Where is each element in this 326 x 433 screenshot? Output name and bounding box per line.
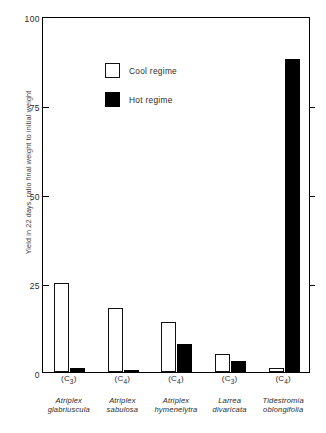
y-axis-tick-75: 75 <box>30 98 43 116</box>
bar-hot <box>70 368 85 372</box>
y-axis-tick-label: 0 <box>35 370 40 380</box>
species-name-label: Larreadivaricata <box>203 396 257 415</box>
species-name-label: Atriplexhymenelytra <box>149 396 203 415</box>
bar-cool <box>269 368 284 372</box>
y-axis-tick-25: 25 <box>30 276 43 294</box>
legend-item-cool: Cool regime <box>105 63 177 78</box>
y-axis-tick-label: 25 <box>30 281 40 291</box>
legend-label-hot: Hot regime <box>129 95 173 105</box>
photosynthetic-pathway-label: (C4) <box>256 374 310 385</box>
x-axis-label-4: (C4)Tidestromiaoblongifolia <box>256 374 310 415</box>
x-axis-label-1: (C4)Atriplexsabulosa <box>96 374 150 415</box>
y-axis-tick-50: 50 <box>30 187 43 205</box>
bar-cool <box>108 308 123 372</box>
x-axis-label-3: (C3)Larreadivaricata <box>203 374 257 415</box>
photosynthetic-pathway-label: (C4) <box>96 374 150 385</box>
y-axis-tick-label: 100 <box>25 14 40 24</box>
legend-swatch-cool-icon <box>105 63 120 78</box>
legend-swatch-hot-icon <box>105 92 120 107</box>
x-axis-label-container: (C3)Atriplexglabriuscula(C4)Atriplexsabu… <box>42 374 310 433</box>
species-name-label: Atriplexglabriuscula <box>42 396 96 415</box>
bar-hot <box>285 59 300 372</box>
bar-hot <box>231 361 246 372</box>
legend-item-hot: Hot regime <box>105 92 177 107</box>
species-name-label: Atriplexsabulosa <box>96 396 150 415</box>
bar-hot <box>124 370 139 372</box>
bar-cool <box>215 354 230 372</box>
bar-cool <box>54 283 69 372</box>
y-axis-tick-label: 75 <box>30 103 40 113</box>
species-name-label: Tidestromiaoblongifolia <box>256 396 310 415</box>
x-axis-label-0: (C3)Atriplexglabriuscula <box>42 374 96 415</box>
bar-chart-figure: Yield in 22 days, ratio final weight to … <box>0 0 326 433</box>
bar-hot <box>177 344 192 372</box>
photosynthetic-pathway-label: (C3) <box>203 374 257 385</box>
bar-group <box>257 18 311 372</box>
y-axis-title: Yield in 22 days, ratio final weight to … <box>24 48 33 298</box>
photosynthetic-pathway-label: (C4) <box>149 374 203 385</box>
bar-cool <box>161 322 176 372</box>
y-axis-tick-100: 100 <box>25 9 43 27</box>
y-axis-tick-label: 50 <box>30 192 40 202</box>
photosynthetic-pathway-label: (C3) <box>42 374 96 385</box>
bar-group <box>204 18 258 372</box>
legend-label-cool: Cool regime <box>129 66 177 76</box>
legend: Cool regime Hot regime <box>105 63 177 121</box>
x-axis-label-2: (C4)Atriplexhymenelytra <box>149 374 203 415</box>
plot-area: 1007550250 Cool regime Hot regime <box>42 17 310 373</box>
bar-group <box>43 18 97 372</box>
